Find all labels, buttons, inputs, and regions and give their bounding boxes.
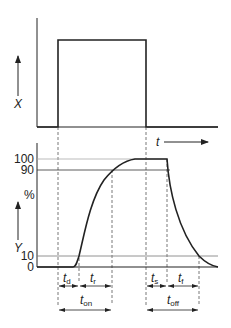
output-response-curve (37, 159, 218, 267)
ts-label: ts (151, 271, 158, 286)
toff-label: toff (167, 293, 180, 308)
time-axis-label: t (156, 135, 160, 149)
y-axis-label: Y (14, 241, 23, 255)
input-signal-graph: X t (13, 18, 218, 149)
x-axis-label: X (13, 97, 23, 111)
tr-label: tr (90, 271, 96, 286)
tick-90: 90 (21, 163, 35, 177)
percent-unit-label: % (24, 188, 35, 202)
ton-label: ton (80, 293, 92, 308)
switching-time-diagram: X t 100 90 10 0 % Y td (0, 0, 231, 328)
tick-0: 0 (27, 260, 34, 274)
time-intervals: td tr ton ts tf toff (59, 271, 198, 310)
tf-label: tf (178, 271, 184, 286)
td-label: td (63, 271, 71, 286)
input-pulse (37, 40, 218, 127)
output-signal-graph: 100 90 10 0 % Y (14, 143, 218, 274)
